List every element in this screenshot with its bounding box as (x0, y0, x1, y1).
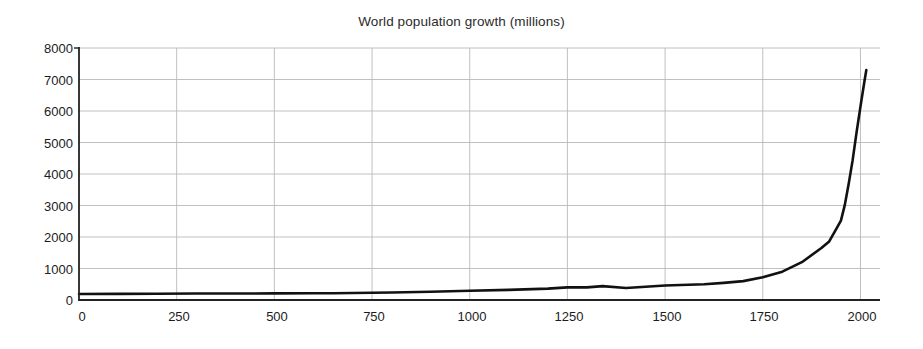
x-tick-label: 1500 (627, 309, 707, 324)
x-tick-label: 1000 (432, 309, 512, 324)
horizontal-gridlines (79, 48, 880, 269)
x-tick-label: 1250 (529, 309, 609, 324)
plot-area (79, 48, 880, 300)
population-curve (79, 70, 866, 294)
x-tick-label: 750 (334, 309, 414, 324)
plot-svg (79, 48, 880, 300)
population-growth-chart: World population growth (millions) 8000 … (0, 0, 923, 349)
x-tick-label: 0 (42, 309, 122, 324)
x-tick-label: 250 (139, 309, 219, 324)
x-tick-label: 500 (237, 309, 317, 324)
x-tick-label: 1750 (724, 309, 804, 324)
x-tick-label: 2000 (822, 309, 902, 324)
